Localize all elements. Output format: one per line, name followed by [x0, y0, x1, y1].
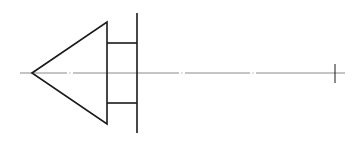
technical-drawing [0, 0, 364, 142]
